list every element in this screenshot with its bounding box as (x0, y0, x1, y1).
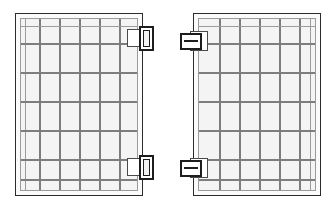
latch-left-bottom[interactable] (127, 155, 154, 180)
left-grid-line-h2 (21, 72, 137, 74)
right-grid-line-h-top (199, 26, 315, 27)
left-grid-line-h4 (21, 130, 137, 132)
right-grid-line-h3 (199, 101, 315, 103)
left-grid-line-h3 (21, 101, 137, 103)
left-panel[interactable] (15, 13, 143, 196)
left-grid-line-h6 (21, 179, 137, 181)
left-grid-line-h-top (21, 26, 137, 27)
latch-left-top[interactable] (127, 26, 154, 51)
latch-right-top-bar (184, 40, 198, 42)
latch-left-bottom-slot (143, 159, 150, 176)
right-grid-line-h6 (199, 179, 315, 181)
left-panel-grid-field (20, 18, 138, 191)
right-panel-grid-field (198, 18, 316, 191)
right-grid-line-h2 (199, 72, 315, 74)
latch-right-bottom[interactable] (180, 158, 208, 180)
right-grid-line-h5 (199, 159, 315, 161)
technical-drawing-canvas (0, 0, 336, 210)
latch-right-bottom-bar (184, 167, 198, 169)
right-panel[interactable] (193, 13, 321, 196)
right-grid-line-h1 (199, 43, 315, 45)
latch-left-top-slot (143, 30, 150, 47)
right-grid-line-h4 (199, 130, 315, 132)
latch-right-top[interactable] (180, 31, 208, 53)
left-grid-line-h5 (21, 159, 137, 161)
left-grid-line-h1 (21, 43, 137, 45)
